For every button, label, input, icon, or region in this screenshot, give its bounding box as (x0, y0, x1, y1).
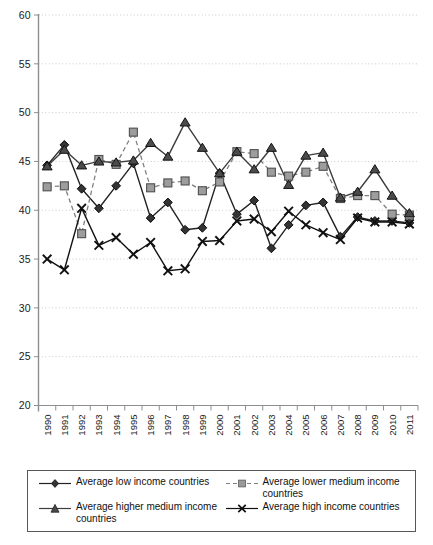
legend-marker-square-icon (225, 477, 259, 490)
data-point (266, 143, 276, 151)
data-point (146, 238, 155, 247)
y-axis-tick-label: 45 (19, 155, 31, 167)
x-axis-tick-label: 1995 (128, 415, 139, 436)
data-point (267, 227, 276, 236)
data-point (302, 168, 310, 176)
x-axis-tick-label: 2011 (404, 415, 415, 435)
x-axis-tick-label: 2005 (300, 415, 311, 436)
data-point (147, 184, 155, 192)
data-point (250, 150, 258, 158)
x-axis-tick-label: 2006 (318, 415, 329, 436)
y-axis-tick-label: 40 (19, 204, 31, 216)
data-point (267, 168, 275, 176)
data-point (181, 225, 190, 234)
data-point (60, 182, 68, 190)
series-layer (42, 118, 414, 275)
legend-item-higher-medium-income: Average higher medium income countries (38, 501, 225, 526)
data-point (216, 178, 224, 186)
data-point (371, 192, 379, 200)
legend-label: Average low income countries (76, 476, 209, 488)
data-point (285, 172, 293, 180)
grid-lines (39, 15, 419, 406)
x-axis-tick-label: 2003 (266, 415, 277, 436)
x-axis-tick-label: 1991 (59, 415, 70, 436)
data-point (78, 230, 86, 238)
legend-label: Average high income countries (263, 501, 400, 513)
y-axis-tick-label: 25 (19, 350, 31, 362)
x-axis-tick-label: 1996 (145, 415, 156, 436)
data-point (43, 183, 51, 191)
y-axis: 605550454035302520 (19, 9, 39, 412)
y-axis-tick-label: 35 (19, 253, 31, 265)
x-axis-tick-label: 1997 (162, 415, 173, 436)
x-axis: 1990199119921993199419951996199719981999… (39, 406, 419, 436)
data-point (146, 138, 156, 146)
legend-item-lower-medium-income: Average lower medium income countries (225, 476, 412, 501)
data-point (129, 128, 137, 136)
line-chart: 605550454035302520 199019911992199319941… (0, 0, 433, 545)
data-point (387, 191, 397, 199)
data-point (388, 210, 396, 218)
data-point (95, 241, 104, 250)
y-axis-tick-label: 30 (19, 302, 31, 314)
legend-label: Average lower medium income countries (263, 476, 412, 499)
x-axis-tick-label: 1994 (111, 415, 122, 436)
x-axis-tick-label: 2000 (214, 415, 225, 436)
data-point (112, 233, 121, 242)
legend-label: Average higher medium income countries (76, 501, 225, 524)
data-point (319, 198, 328, 207)
chart-legend: Average low income countries Average low… (27, 470, 416, 532)
x-axis-tick-label: 1998 (180, 415, 191, 436)
x-axis-tick-label: 2001 (231, 415, 242, 436)
legend-marker-cross-icon (225, 502, 259, 515)
data-point (129, 250, 138, 259)
data-point (370, 165, 380, 173)
legend-item-high-income: Average high income countries (225, 501, 412, 526)
legend-marker-diamond-icon (38, 477, 72, 490)
data-point (60, 266, 69, 275)
data-point (318, 148, 328, 156)
data-point (302, 221, 311, 230)
data-point (319, 228, 328, 237)
x-axis-tick-label: 2008 (352, 415, 363, 436)
x-axis-tick-label: 2002 (249, 415, 260, 436)
data-point (198, 187, 206, 195)
data-point (164, 179, 172, 187)
data-point (197, 143, 207, 151)
data-point (284, 207, 293, 216)
data-point (181, 177, 189, 185)
data-point (43, 255, 52, 264)
data-point (180, 118, 190, 126)
x-axis-tick-label: 1999 (197, 415, 208, 436)
y-axis-tick-label: 50 (19, 106, 31, 118)
data-point (77, 204, 86, 213)
x-axis-tick-label: 2007 (335, 415, 346, 436)
x-axis-tick-label: 1993 (93, 415, 104, 436)
figure-container: 605550454035302520 199019911992199319941… (0, 0, 433, 545)
legend-item-low-income: Average low income countries (38, 476, 225, 501)
y-axis-tick-label: 20 (19, 399, 31, 411)
x-axis-tick-label: 1990 (42, 415, 53, 436)
data-point (284, 180, 294, 188)
y-axis-tick-label: 55 (19, 58, 31, 70)
x-axis-tick-label: 1992 (76, 415, 87, 436)
y-axis-tick-label: 60 (19, 9, 31, 21)
x-axis-tick-label: 2004 (283, 415, 294, 436)
legend-marker-triangle-icon (38, 502, 72, 515)
data-point (319, 162, 327, 170)
data-point (198, 223, 207, 232)
x-axis-tick-label: 2010 (387, 415, 398, 436)
x-axis-tick-label: 2009 (369, 415, 380, 436)
